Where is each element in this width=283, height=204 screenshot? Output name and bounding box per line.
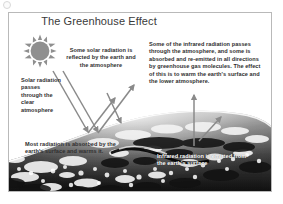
callout-reflected-radiation: Some solar radiation is reflected by the… [65, 47, 137, 69]
figure-frame: The Greenhouse Effect [8, 12, 272, 192]
sun-icon [23, 34, 56, 67]
callout-infrared-passes-through: Some of the infrared radiation passes th… [149, 41, 261, 85]
callout-solar-passes-through: Solar radiation passes through the clear… [21, 77, 61, 114]
page-title: The Greenhouse Effect [9, 15, 189, 28]
greenhouse-effect-diagram: The Greenhouse Effect [0, 0, 283, 204]
callout-infrared-emitted: Infrared radiation is emitted from the e… [157, 153, 253, 168]
corner-artifact [3, 1, 11, 9]
callout-most-radiation-absorbed: Most radiation is absorbed by the earth'… [25, 141, 117, 156]
